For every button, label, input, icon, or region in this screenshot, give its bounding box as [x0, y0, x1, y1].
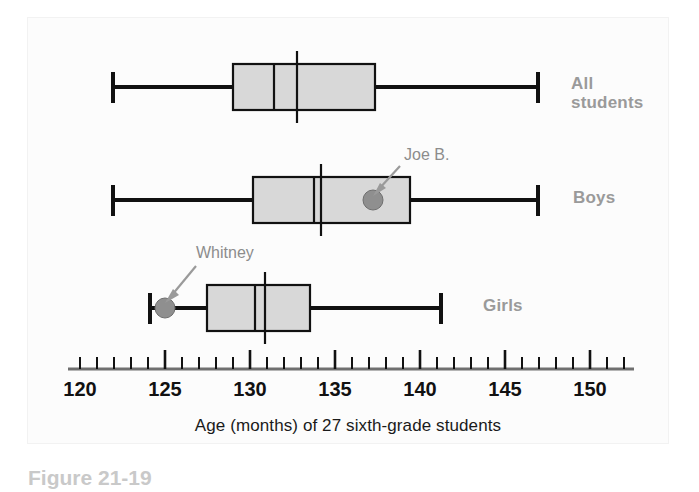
box-all [233, 64, 375, 110]
tick-label-145: 145 [488, 378, 521, 400]
boxplot-boys [113, 164, 538, 236]
axis-tick-labels: 120 125 130 135 140 145 150 [63, 378, 606, 400]
tick-label-130: 130 [233, 378, 266, 400]
annotation-label-whitney: Whitney [196, 244, 254, 262]
series-label-girls: Girls [483, 296, 523, 315]
data-point-joe [363, 190, 383, 210]
annotation-arrow-whitney [165, 266, 196, 303]
x-axis-title: Age (months) of 27 sixth-grade students [28, 416, 668, 436]
box-boys [253, 177, 410, 223]
annotation-label-joe: Joe B. [404, 146, 449, 164]
data-point-whitney [155, 298, 175, 318]
figure-caption: Figure 21-19 [28, 468, 348, 492]
boxplot-girls [150, 272, 441, 344]
tick-label-140: 140 [403, 378, 436, 400]
figure-caption-text: Figure 21-19 [28, 468, 348, 488]
tick-label-150: 150 [573, 378, 606, 400]
box-girls [207, 285, 310, 331]
axis-ticks [80, 350, 624, 369]
figure-panel: 120 125 130 135 140 145 150 All students… [28, 18, 668, 443]
boxplot-all-students [113, 51, 538, 123]
series-label-all-students-line2: students [571, 93, 643, 112]
series-label-all-students-line1: All [571, 74, 643, 93]
tick-label-125: 125 [148, 378, 181, 400]
tick-label-135: 135 [318, 378, 351, 400]
x-axis: 120 125 130 135 140 145 150 [63, 350, 634, 400]
series-label-boys: Boys [573, 188, 615, 207]
tick-label-120: 120 [63, 378, 96, 400]
series-label-all-students: All students [571, 74, 643, 112]
